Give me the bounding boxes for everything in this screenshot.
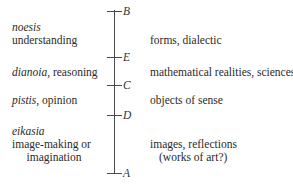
point-label-c: C xyxy=(123,79,131,91)
eikasia-objects-line-2: (works of art?) xyxy=(159,151,227,164)
point-label-a: A xyxy=(123,167,130,179)
tick-e xyxy=(107,57,122,58)
pistis-objects: objects of sense xyxy=(150,94,223,107)
tick-b xyxy=(107,11,122,12)
eikasia-description-line-1: image-making or xyxy=(12,138,91,151)
tick-d xyxy=(107,115,122,116)
dianoia-description: reasoning xyxy=(50,66,98,78)
dianoia-objects: mathematical realities, sciences xyxy=(150,66,293,79)
vertical-divided-line xyxy=(114,10,115,174)
tick-c xyxy=(107,85,122,86)
eikasia-objects-line-1: images, reflections xyxy=(150,138,237,151)
pistis-description: opinion xyxy=(39,94,77,106)
dianoia-term: dianoia, xyxy=(12,66,50,78)
pistis-term: pistis, xyxy=(12,94,39,106)
eikasia-term: eikasia xyxy=(12,125,45,138)
noesis-description: understanding xyxy=(12,34,77,47)
noesis-term: noesis xyxy=(12,21,41,34)
eikasia-description-line-2: imagination xyxy=(12,151,96,164)
point-label-d: D xyxy=(123,109,131,121)
dianoia-label: dianoia, reasoning xyxy=(12,66,98,79)
pistis-label: pistis, opinion xyxy=(12,94,77,107)
tick-a xyxy=(107,173,122,174)
point-label-e: E xyxy=(123,51,130,63)
point-label-b: B xyxy=(123,5,130,17)
noesis-objects: forms, dialectic xyxy=(150,34,222,47)
